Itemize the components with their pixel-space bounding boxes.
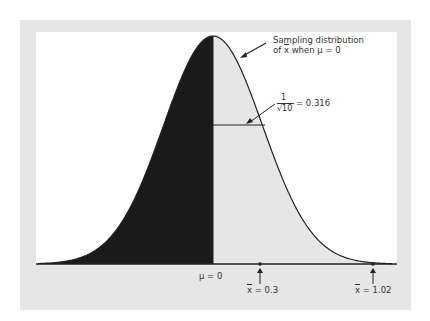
xbar-0.3-label: x = 0.3 bbox=[247, 285, 278, 295]
mu-label: μ = 0 bbox=[199, 271, 222, 281]
curve-label-arrow bbox=[243, 43, 266, 56]
right-shaded-region bbox=[213, 36, 392, 264]
xbar-0.3-point bbox=[258, 262, 262, 266]
xbar-0.3-arrowhead bbox=[257, 268, 263, 273]
curve-label: Sampling distribution of x when μ = 0 bbox=[273, 35, 364, 55]
xbar-1.02-arrowhead bbox=[370, 268, 376, 273]
xbar-1.02-label: x = 1.02 bbox=[355, 285, 391, 295]
left-shaded-region bbox=[38, 36, 213, 264]
xbar-1.02-point bbox=[371, 262, 375, 266]
curve-label-arrowhead bbox=[240, 52, 247, 58]
